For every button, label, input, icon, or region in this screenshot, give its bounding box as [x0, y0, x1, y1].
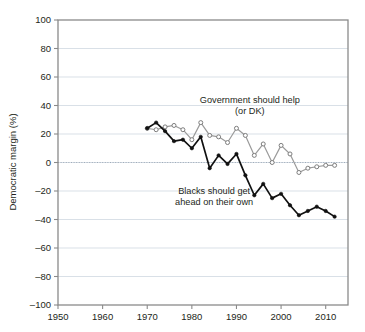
data-point: [333, 163, 337, 167]
y-tick-label: 0: [46, 157, 51, 168]
data-point: [190, 147, 193, 150]
data-point: [163, 129, 166, 132]
data-point: [306, 166, 310, 170]
y-tick-label: 20: [40, 128, 51, 139]
data-point: [217, 154, 220, 157]
data-point: [324, 163, 328, 167]
data-point: [181, 138, 184, 141]
annotation-line: Government should help: [200, 95, 300, 105]
data-point: [199, 121, 203, 125]
data-point: [190, 138, 194, 142]
data-point: [252, 153, 256, 157]
x-tick-label: 1980: [181, 311, 202, 322]
data-point: [324, 209, 327, 212]
x-tick-label: 2000: [271, 311, 292, 322]
data-point: [226, 141, 230, 145]
x-axis: 1950196019701980199020002010: [47, 305, 336, 322]
data-point: [154, 128, 158, 132]
data-point: [270, 161, 274, 165]
data-point: [306, 209, 309, 212]
y-tick-label: –100: [30, 299, 51, 310]
data-point: [315, 205, 318, 208]
data-point: [270, 196, 273, 199]
data-point: [235, 152, 238, 155]
data-point: [243, 133, 247, 137]
data-point: [154, 121, 157, 124]
y-axis: –100–80–60–40–20020406080100: [30, 14, 58, 310]
data-point: [181, 128, 185, 132]
data-point: [297, 170, 301, 174]
x-tick-label: 1990: [226, 311, 247, 322]
y-tick-label: 80: [40, 43, 51, 54]
y-tick-label: 100: [35, 14, 51, 25]
x-tick-label: 1960: [92, 311, 113, 322]
annotation-line: (or DK): [235, 106, 265, 116]
y-tick-label: –80: [35, 271, 51, 282]
blacks-should-get-ahead-label: Blacks should getahead on their own: [175, 186, 253, 207]
x-tick-label: 1970: [137, 311, 158, 322]
data-point: [288, 204, 291, 207]
x-tick-label: 2010: [315, 311, 336, 322]
data-point: [199, 135, 202, 138]
data-point: [333, 215, 336, 218]
data-point: [315, 165, 319, 169]
data-point: [172, 123, 176, 127]
y-tick-label: –60: [35, 242, 51, 253]
x-tick-label: 1950: [47, 311, 68, 322]
y-tick-label: –20: [35, 185, 51, 196]
data-point: [288, 152, 292, 156]
y-tick-label: 40: [40, 100, 51, 111]
data-point: [279, 192, 282, 195]
y-tick-label: –40: [35, 214, 51, 225]
data-point: [217, 135, 221, 139]
data-point: [226, 162, 229, 165]
y-tick-label: 60: [40, 71, 51, 82]
data-point: [172, 139, 175, 142]
democratic-margin-line-chart: –100–80–60–40–20020406080100 19501960197…: [0, 0, 365, 332]
data-point: [297, 214, 300, 217]
chart-figure: –100–80–60–40–20020406080100 19501960197…: [0, 0, 365, 332]
data-point: [208, 167, 211, 170]
data-point: [244, 174, 247, 177]
data-point: [146, 127, 149, 130]
annotation-line: Blacks should get: [178, 186, 250, 196]
data-point: [163, 125, 167, 129]
data-point: [261, 142, 265, 146]
annotation-line: ahead on their own: [175, 197, 253, 207]
data-point: [208, 133, 212, 137]
data-point: [262, 182, 265, 185]
data-point: [279, 143, 283, 147]
y-axis-title: Democratic margin (%): [7, 113, 18, 210]
data-point: [234, 126, 238, 130]
